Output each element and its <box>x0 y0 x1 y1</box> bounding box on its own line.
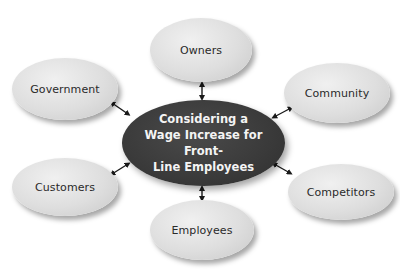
center-line-1: Considering a <box>134 111 274 127</box>
node-label: Community <box>305 87 370 100</box>
node-label: Employees <box>171 224 232 237</box>
node-label: Competitors <box>307 186 376 199</box>
arrow-government <box>112 103 128 114</box>
center-line-2: Wage Increase for Front- <box>134 127 274 159</box>
node-label: Government <box>30 83 100 96</box>
node-competitors: Competitors <box>288 164 394 220</box>
node-community: Community <box>284 63 390 123</box>
node-owners: Owners <box>150 18 252 82</box>
stakeholder-diagram: Owners Government Community Customers Co… <box>0 0 400 271</box>
node-label: Owners <box>180 44 222 57</box>
node-government: Government <box>12 58 118 120</box>
center-line-3: Line Employees <box>134 159 274 175</box>
node-label: Customers <box>35 181 95 194</box>
arrow-customers <box>112 164 128 174</box>
center-title: Considering a Wage Increase for Front- L… <box>134 111 274 175</box>
node-customers: Customers <box>12 158 118 216</box>
node-employees: Employees <box>150 200 254 260</box>
center-node: Considering a Wage Increase for Front- L… <box>122 100 285 186</box>
arrow-competitors <box>274 164 290 173</box>
arrow-community <box>274 108 291 117</box>
